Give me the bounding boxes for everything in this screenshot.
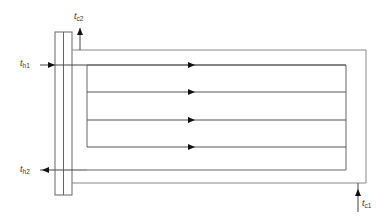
arrow-up-icon xyxy=(355,189,361,196)
tube-sheet xyxy=(55,32,72,195)
label-cold-inlet: tc1 xyxy=(362,198,372,209)
label-hot-outlet: th2 xyxy=(20,164,30,175)
heat-exchanger-diagram: tc2 th1 th2 tc1 xyxy=(0,0,387,220)
cold-outlet-flow xyxy=(77,28,83,50)
tube-passes xyxy=(87,62,346,150)
arrow-right-icon xyxy=(188,117,195,123)
arrow-right-icon xyxy=(188,62,195,68)
cold-inlet-flow xyxy=(355,183,361,212)
arrow-right-icon xyxy=(48,62,55,68)
arrow-up-icon xyxy=(77,28,83,35)
arrow-right-icon xyxy=(188,89,195,95)
label-hot-inlet: th1 xyxy=(20,58,30,69)
inner-tube-bundle xyxy=(87,65,346,170)
arrow-right-icon xyxy=(188,144,195,150)
arrow-left-icon xyxy=(42,167,49,173)
outer-shell xyxy=(72,50,366,183)
label-cold-outlet: tc2 xyxy=(74,11,84,22)
